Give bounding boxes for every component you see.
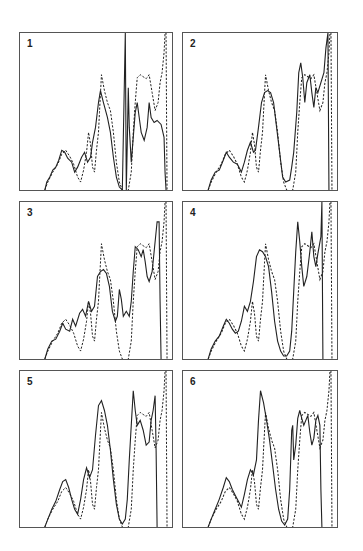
panel-3: 3 <box>19 201 173 360</box>
plot-area <box>20 202 172 359</box>
plot-area <box>183 202 337 359</box>
reference-dashed-line <box>45 371 167 527</box>
fit-solid-line <box>45 33 166 190</box>
reference-dashed-line <box>208 371 332 527</box>
plot-area <box>183 371 337 527</box>
reference-dashed-line <box>208 33 332 190</box>
plot-area <box>20 371 172 527</box>
fit-solid-line <box>208 33 329 190</box>
plot-area <box>183 33 337 190</box>
plot-area <box>20 33 172 190</box>
panel-4: 4 <box>182 201 338 360</box>
panel-5: 5 <box>19 370 173 528</box>
fit-solid-line <box>208 391 322 527</box>
panel-1: 1 <box>19 32 173 191</box>
fit-solid-line <box>208 202 323 359</box>
panel-6: 6 <box>182 370 338 528</box>
panel-2: 2 <box>182 32 338 191</box>
fit-solid-line <box>45 222 161 359</box>
fit-solid-line <box>45 391 157 527</box>
